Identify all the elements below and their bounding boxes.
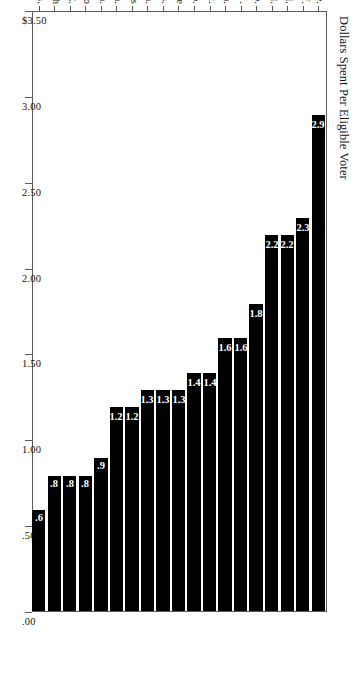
bar-nc: .8: [63, 476, 76, 611]
value-axis-tick: [25, 526, 32, 527]
category-axis-tick: [272, 6, 273, 11]
bar-row: 2.2: [279, 12, 295, 611]
bar-nj: 1.6: [234, 338, 247, 611]
bar-value-label: 1.4: [203, 378, 216, 389]
bar-row: 1.6: [217, 12, 233, 611]
category-axis-tick: [101, 6, 102, 11]
bar-ore: 2.9: [312, 115, 325, 611]
bar-value-label: 1.6: [219, 344, 232, 355]
category-axis-tick: [225, 6, 226, 11]
category-axis-tick: [256, 6, 257, 11]
value-axis-tick: [25, 440, 32, 441]
bar-del: 2.2: [281, 235, 294, 611]
value-axis-tick: [25, 183, 32, 184]
bar-texas: 1.2: [125, 407, 138, 611]
category-label-nc: N.C.: [67, 0, 78, 4]
bar-row: 1.2: [109, 12, 125, 611]
value-axis-tick-label: 2.00: [22, 273, 41, 284]
bar-row: 1.4: [186, 12, 202, 611]
category-label-del: Del.: [284, 0, 295, 4]
bar-row: .8: [62, 12, 78, 611]
plot-frame: 2.92.32.22.21.81.61.61.41.41.31.31.31.21…: [32, 11, 327, 612]
category-axis: Ore.Calif.Del.Ill.Wyo.N.J.Kan.Mont.Mo.Ma…: [32, 0, 327, 11]
category-axis-tick: [39, 6, 40, 11]
category-label-minn: Minn.: [98, 0, 109, 4]
bar-row: 2.3: [295, 12, 311, 611]
value-axis-tick-label: 1.00: [22, 444, 41, 455]
bar-row: .8: [47, 12, 63, 611]
bar-row: 1.3: [140, 12, 156, 611]
category-axis-tick: [163, 6, 164, 11]
bar-value-label: .9: [97, 461, 105, 472]
value-axis-tick: [25, 612, 32, 613]
value-axis-tick-label: 3.00: [22, 101, 41, 112]
category-label-mont: Mont.: [207, 0, 218, 4]
value-axis-tick-label: .50: [22, 530, 36, 541]
category-label-texas: Texas: [129, 0, 140, 4]
bar-value-label: .8: [50, 478, 58, 489]
category-axis-tick: [85, 6, 86, 11]
category-label-ore: Ore.: [315, 0, 326, 4]
category-label-maine: Maine: [176, 0, 187, 4]
category-label-mo: Mo.: [191, 0, 202, 4]
bar-value-label: 1.2: [125, 412, 138, 423]
bar-calif: 2.3: [296, 218, 309, 611]
category-axis-tick: [116, 6, 117, 11]
bar-mo: 1.4: [187, 373, 200, 611]
bar-row: 2.2: [264, 12, 280, 611]
bar-wis: 1.3: [156, 390, 169, 611]
category-label-ill: Ill.: [269, 0, 280, 4]
bar-idaho: .8: [79, 476, 92, 611]
category-label-idaho: Idaho: [82, 0, 93, 4]
value-axis-tick: [25, 97, 32, 98]
bars-area: 2.92.32.22.21.81.61.61.41.41.31.31.31.21…: [33, 12, 326, 611]
value-axis-title: Dollars Spent Per Eligible Voter: [332, 16, 356, 636]
bar-row: 1.2: [124, 12, 140, 611]
bar-value-label: 2.9: [312, 120, 325, 131]
category-label-nj: N.J.: [238, 0, 249, 4]
value-axis-tick: [25, 11, 32, 12]
category-axis-tick: [287, 6, 288, 11]
category-label-pa: Pa.: [144, 0, 155, 4]
bar-value-label: .8: [81, 478, 89, 489]
bar-value-label: 1.3: [156, 395, 169, 406]
bar-value-label: 2.3: [296, 223, 309, 234]
bar-row: 1.6: [233, 12, 249, 611]
category-axis-tick: [132, 6, 133, 11]
bar-kan: 1.6: [218, 338, 231, 611]
bar-value-label: 1.6: [234, 344, 247, 355]
value-axis-tick: [25, 269, 32, 270]
bar-minn: .9: [94, 458, 107, 611]
bar-utah: .8: [48, 476, 61, 611]
bar-row: 2.9: [310, 12, 326, 611]
category-label-wyo: Wyo.: [253, 0, 264, 4]
bar-row: 1.8: [248, 12, 264, 611]
bar-value-label: 2.2: [265, 241, 278, 252]
value-axis-tick-label: $3.50: [22, 15, 47, 26]
category-axis-tick: [303, 6, 304, 11]
category-label-calif: Calif.: [300, 0, 311, 4]
value-axis: $3.503.002.502.001.501.00.50.00: [2, 11, 32, 612]
bar-miss: .6: [32, 510, 45, 611]
bar-ill: 2.2: [265, 235, 278, 611]
value-axis-tick: [25, 354, 32, 355]
value-axis-tick-label: 2.50: [22, 187, 41, 198]
bar-row: .9: [93, 12, 109, 611]
bar-value-label: 1.2: [110, 412, 123, 423]
category-label-kan: Kan.: [222, 0, 233, 4]
bar-value-label: 1.4: [187, 378, 200, 389]
bar-wyo: 1.8: [249, 304, 262, 611]
bar-value-label: 1.8: [250, 309, 263, 320]
category-axis-tick: [194, 6, 195, 11]
category-axis-tick: [70, 6, 71, 11]
category-label-utah: Utah: [51, 0, 62, 4]
category-label-wis: Wis.: [160, 0, 171, 4]
bar-pa: 1.3: [141, 390, 154, 611]
bar-row: .8: [78, 12, 94, 611]
category-axis-tick: [318, 6, 319, 11]
category-axis-tick: [179, 6, 180, 11]
value-axis-tick-label: 1.50: [22, 358, 41, 369]
bar-value-label: .6: [35, 513, 43, 524]
bar-value-label: 2.2: [281, 241, 294, 252]
bar-value-label: .8: [66, 478, 74, 489]
